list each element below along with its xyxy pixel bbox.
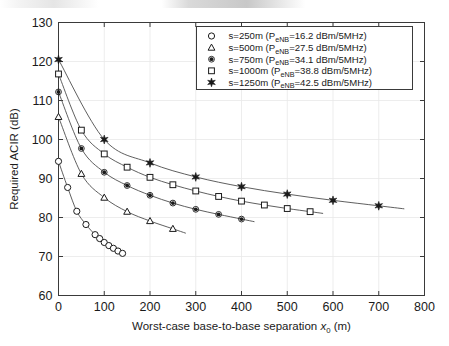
x-tick-label: 700	[368, 300, 389, 314]
marker-circle-open	[74, 208, 80, 214]
y-tick-label: 130	[32, 16, 53, 30]
marker-square-open	[193, 188, 199, 194]
x-axis-title-unit: (m)	[331, 320, 352, 332]
series-line	[59, 92, 255, 222]
data-series-500m	[55, 113, 185, 233]
marker-dot-filled	[240, 217, 244, 221]
legend-label-prefix: s=750m (P	[229, 54, 276, 65]
marker-triangle-open	[124, 208, 131, 214]
x-tick-label: 400	[231, 300, 252, 314]
marker-square-open	[147, 174, 153, 180]
legend-label-suffix: =16.2 dBm/5MHz)	[289, 30, 367, 41]
legend: s=250m (PeNB=16.2 dBm/5MHz)s=500m (PeNB=…	[197, 27, 413, 91]
legend-label-subscript: eNB	[281, 81, 295, 90]
legend-label-prefix: s=1000m (P	[229, 65, 281, 76]
marker-star-filled	[238, 182, 246, 191]
y-tick-label: 90	[39, 172, 53, 186]
x-tick-labels: 0100200300400500600700800	[55, 300, 435, 314]
marker-dot-filled	[171, 201, 175, 205]
x-tick-label: 600	[323, 300, 344, 314]
marker-square-open	[101, 151, 107, 157]
marker-dot-filled	[148, 193, 152, 197]
x-tick-label: 200	[140, 300, 161, 314]
legend-label-subscript: eNB	[281, 70, 295, 79]
marker-square-open	[170, 182, 176, 188]
y-axis-title: Required ACIR (dB)	[8, 108, 20, 210]
marker-dot-filled	[79, 147, 83, 151]
y-tick-label: 120	[32, 55, 53, 69]
x-axis-title: Worst-case base-to-base separation x0 (m…	[132, 320, 351, 335]
marker-dot-filled	[194, 207, 198, 211]
marker-triangle-open	[101, 194, 108, 200]
series-line	[59, 161, 126, 254]
marker-triangle-open	[55, 113, 62, 119]
y-tick-label: 100	[32, 133, 53, 147]
data-series-750m	[56, 89, 254, 222]
marker-circle-open	[55, 158, 61, 164]
y-tick-label: 80	[39, 211, 53, 225]
marker-square-open	[307, 209, 313, 215]
y-tick-label: 70	[39, 250, 53, 264]
marker-square-open	[216, 194, 222, 200]
marker-star-filled	[55, 55, 63, 64]
legend-label-prefix: s=250m (P	[229, 30, 276, 41]
marker-dot-filled	[125, 184, 129, 188]
marker-square-open	[284, 206, 290, 212]
y-tick-labels: 60708090100110120130	[32, 16, 53, 303]
x-tick-label: 100	[94, 300, 115, 314]
marker-dot-filled	[102, 170, 106, 174]
x-axis-title-main: Worst-case base-to-base separation	[132, 320, 320, 332]
y-tick-label: 60	[39, 289, 53, 303]
legend-label-suffix: =34.1 dBm/5MHz)	[289, 54, 367, 65]
legend-label-subscript: eNB	[275, 35, 289, 44]
legend-label-subscript: eNB	[275, 47, 289, 56]
y-tick-label: 110	[33, 94, 53, 108]
legend-label-suffix: =27.5 dBm/5MHz)	[289, 42, 367, 53]
marker-circle-open	[208, 33, 214, 39]
legend-label-prefix: s=1250m (P	[229, 77, 281, 88]
x-tick-label: 800	[414, 300, 435, 314]
legend-label-suffix: =38.8 dBm/5MHz)	[294, 65, 372, 76]
legend-label-prefix: s=500m (P	[229, 42, 276, 53]
chart-figure: 0100200300400500600700800607080901001101…	[0, 0, 449, 346]
marker-square-open	[261, 202, 267, 208]
legend-label-suffix: =42.5 dBm/5MHz)	[294, 77, 372, 88]
data-series-250m	[55, 158, 125, 256]
marker-square-open	[56, 71, 62, 77]
marker-square-open	[78, 127, 84, 133]
series-markers	[56, 71, 313, 214]
marker-square-open	[209, 68, 215, 74]
marker-square-open	[239, 198, 245, 204]
x-tick-label: 300	[185, 300, 206, 314]
marker-circle-open	[65, 184, 71, 190]
x-tick-label: 0	[55, 300, 62, 314]
marker-dot-filled	[57, 90, 61, 94]
acir-vs-separation-chart: 0100200300400500600700800607080901001101…	[0, 0, 449, 346]
x-tick-label: 500	[277, 300, 298, 314]
marker-circle-open	[119, 250, 125, 256]
marker-square-open	[124, 164, 130, 170]
series-markers	[55, 158, 125, 256]
marker-dot-filled	[210, 57, 214, 61]
marker-star-filled	[146, 159, 154, 168]
marker-dot-filled	[217, 212, 221, 216]
marker-triangle-open	[78, 170, 85, 176]
series-line	[59, 117, 186, 233]
marker-star-filled	[192, 173, 200, 182]
marker-circle-open	[83, 221, 89, 227]
